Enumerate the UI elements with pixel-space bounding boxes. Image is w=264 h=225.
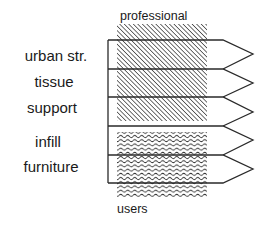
- level-label-urban-str: urban str.: [25, 47, 88, 64]
- level-label-infill: infill: [35, 133, 61, 150]
- level-label-furniture: furniture: [23, 158, 78, 175]
- professional-label: professional: [120, 9, 187, 23]
- professional-zone: [117, 24, 207, 121]
- level-label-tissue: tissue: [34, 73, 73, 90]
- levels-diagram: professional users urban str. tissue sup…: [0, 0, 264, 225]
- users-label: users: [117, 202, 148, 216]
- users-zone: [117, 132, 207, 197]
- level-label-support: support: [27, 99, 78, 116]
